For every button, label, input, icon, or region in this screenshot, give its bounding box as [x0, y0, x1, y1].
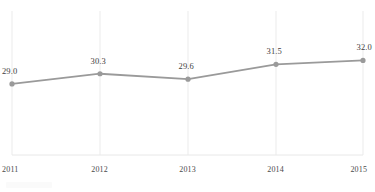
x-tick-2011: 2011	[2, 165, 19, 175]
legend-swatch-stub	[6, 182, 52, 188]
data-label-2014: 31.5	[267, 46, 282, 56]
x-tick-2014: 2014	[267, 165, 284, 175]
x-tick-2013: 2013	[179, 165, 196, 175]
data-point-2011[interactable]	[9, 81, 14, 86]
chart-plot-area	[0, 0, 375, 192]
x-tick-2015: 2015	[350, 165, 367, 175]
data-point-2012[interactable]	[97, 71, 102, 76]
line-chart: 29.030.329.631.532.0 2011201220132014201…	[0, 0, 375, 192]
data-label-2013: 29.6	[179, 61, 194, 71]
data-label-2015: 32.0	[357, 42, 372, 52]
data-point-2014[interactable]	[273, 62, 278, 67]
x-tick-2012: 2012	[91, 165, 108, 175]
data-label-2011: 29.0	[2, 66, 17, 76]
data-label-2012: 30.3	[91, 56, 106, 66]
gridline-group	[12, 11, 363, 155]
data-point-2015[interactable]	[360, 58, 365, 63]
data-point-2013[interactable]	[185, 77, 190, 82]
